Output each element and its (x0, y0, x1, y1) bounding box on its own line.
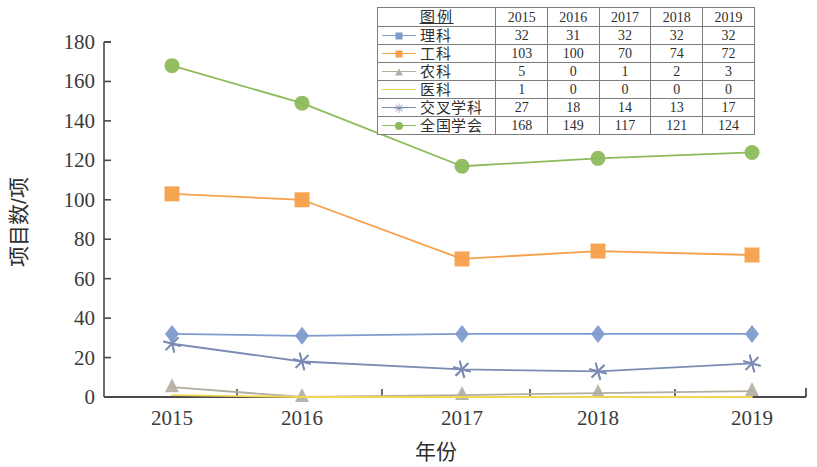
legend-marker-asterisk-icon: ✳ (382, 101, 416, 115)
legend-value-cell: 70 (599, 45, 651, 63)
legend-header-2017: 2017 (599, 8, 651, 27)
data-point-diamond (295, 327, 309, 345)
legend-series-label: 农科 (420, 63, 451, 80)
legend-row: 理科3231323232 (378, 27, 755, 45)
data-point-diamond (745, 325, 759, 343)
y-axis-tick-label: 100 (64, 188, 96, 212)
legend-value-cell: 117 (599, 117, 651, 135)
series-工科 (165, 186, 760, 266)
legend-value-cell: 1 (496, 81, 548, 99)
legend-value-cell: 103 (496, 45, 548, 63)
legend-series-name-cell: ✳交叉学科 (378, 99, 496, 117)
legend-marker-circle-icon (382, 119, 416, 133)
data-point-circle (165, 58, 180, 73)
legend-marker-square-icon (382, 47, 416, 61)
legend-series-label: 交叉学科 (420, 99, 482, 116)
x-axis-tick-label: 2016 (281, 406, 323, 430)
x-axis-title: 年份 (415, 440, 457, 463)
x-axis-tick-label: 2019 (731, 406, 773, 430)
legend-value-cell: 32 (496, 27, 548, 45)
y-axis-tick-label: 80 (74, 227, 95, 251)
y-axis-tick-label: 40 (74, 306, 95, 330)
legend-value-cell: 0 (651, 81, 703, 99)
data-point-triangle (295, 388, 309, 402)
legend-table-body: 理科3231323232工科103100707472农科50123医科10000… (378, 27, 755, 135)
legend-value-cell: 2 (651, 63, 703, 81)
legend-value-cell: 124 (703, 117, 755, 135)
legend-series-label: 理科 (420, 27, 451, 44)
legend-data-table: 图例 2015 2016 2017 2018 2019 理科3231323232… (377, 7, 755, 135)
y-axis-tick-label: 60 (74, 267, 95, 291)
y-axis-tick-label: 140 (64, 109, 96, 133)
legend-value-cell: 32 (703, 27, 755, 45)
y-axis-tick-label: 0 (85, 385, 96, 409)
data-point-circle (591, 151, 606, 166)
legend-row: 农科50123 (378, 63, 755, 81)
y-axis-tick-label: 20 (74, 346, 95, 370)
legend-value-cell: 3 (703, 63, 755, 81)
series-理科 (165, 325, 759, 345)
data-point-circle (745, 145, 760, 160)
data-point-triangle (165, 378, 179, 392)
legend-series-name-cell: 全国学会 (378, 117, 496, 135)
legend-header-2018: 2018 (651, 8, 703, 27)
data-point-square (455, 251, 470, 266)
data-point-square (165, 186, 180, 201)
legend-value-cell: 5 (496, 63, 548, 81)
legend-header-2019: 2019 (703, 8, 755, 27)
legend-value-cell: 0 (548, 63, 600, 81)
legend-value-cell: 1 (599, 63, 651, 81)
legend-value-cell: 168 (496, 117, 548, 135)
data-point-square (745, 248, 760, 263)
chart-container: 0204060801001201401601802015201620172018… (0, 0, 817, 467)
legend-value-cell: 100 (548, 45, 600, 63)
legend-value-cell: 31 (548, 27, 600, 45)
data-point-triangle (455, 386, 469, 400)
data-point-diamond (165, 325, 179, 343)
legend-value-cell: 0 (548, 81, 600, 99)
data-point-square (591, 244, 606, 259)
data-point-diamond (591, 325, 605, 343)
data-point-diamond (455, 325, 469, 343)
legend-value-cell: 74 (651, 45, 703, 63)
legend-series-label: 全国学会 (420, 117, 482, 134)
legend-header-name-text: 图例 (420, 8, 454, 25)
legend-marker-triangle-icon (382, 65, 416, 79)
legend-value-cell: 0 (599, 81, 651, 99)
legend-value-cell: 32 (599, 27, 651, 45)
legend-row: 工科103100707472 (378, 45, 755, 63)
legend-row: 医科10000 (378, 81, 755, 99)
y-axis-title: 项目数/项 (7, 177, 30, 267)
legend-header-name: 图例 (378, 8, 496, 27)
x-axis-tick-label: 2015 (151, 406, 193, 430)
legend-value-cell: 149 (548, 117, 600, 135)
legend-value-cell: 121 (651, 117, 703, 135)
legend-series-name-cell: 理科 (378, 27, 496, 45)
legend-value-cell: 27 (496, 99, 548, 117)
y-axis-tick-label: 160 (64, 69, 96, 93)
series-农科 (165, 378, 759, 402)
data-point-triangle (591, 384, 605, 398)
legend-series-label: 医科 (420, 81, 451, 98)
y-axis-tick-label: 180 (64, 30, 96, 54)
legend-header-2016: 2016 (548, 8, 600, 27)
legend-marker-diamond-icon (382, 29, 416, 43)
legend-value-cell: 32 (651, 27, 703, 45)
legend-header-2015: 2015 (496, 8, 548, 27)
data-point-circle (295, 96, 310, 111)
legend-value-cell: 72 (703, 45, 755, 63)
legend-series-label: 工科 (420, 45, 451, 62)
legend-row: 全国学会168149117121124 (378, 117, 755, 135)
legend-value-cell: 13 (651, 99, 703, 117)
y-axis-tick-label: 120 (64, 148, 96, 172)
legend-value-cell: 14 (599, 99, 651, 117)
legend-series-name-cell: 工科 (378, 45, 496, 63)
legend-value-cell: 0 (703, 81, 755, 99)
legend-series-name-cell: 医科 (378, 81, 496, 99)
legend-value-cell: 18 (548, 99, 600, 117)
data-point-circle (455, 159, 470, 174)
data-point-square (295, 192, 310, 207)
legend-marker-none-icon (382, 83, 416, 97)
legend-value-cell: 17 (703, 99, 755, 117)
legend-header-row: 图例 2015 2016 2017 2018 2019 (378, 8, 755, 27)
